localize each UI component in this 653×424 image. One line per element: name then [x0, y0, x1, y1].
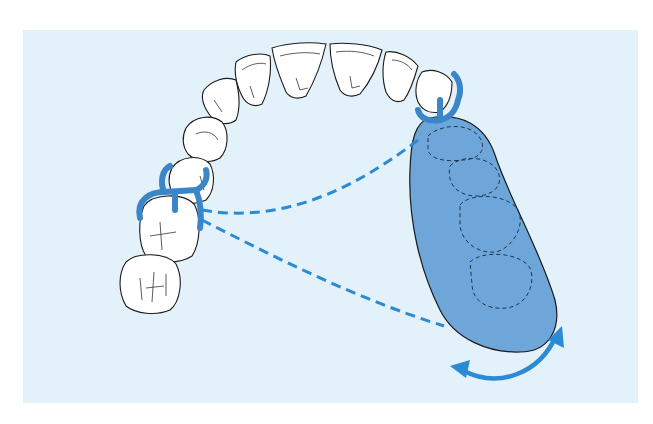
dental-arch-diagram: [0, 0, 653, 424]
tooth-premolar-1: [183, 117, 227, 161]
axis-upper: [202, 140, 418, 213]
teeth: [120, 43, 452, 314]
axis-lower: [202, 220, 444, 326]
tooth-incisor-4: [383, 52, 418, 102]
rotation-axes: [202, 140, 444, 326]
tooth-canine-right: [416, 70, 452, 112]
tooth-incisor-1: [272, 43, 326, 98]
tooth-molar-1: [140, 196, 199, 262]
tooth-incisor-3: [235, 54, 270, 106]
denture-saddle: [410, 117, 557, 352]
tooth-molar-2: [120, 255, 180, 314]
